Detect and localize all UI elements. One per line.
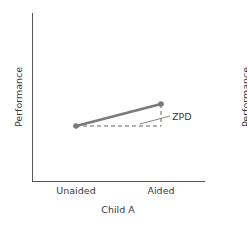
point-aided — [158, 101, 164, 107]
zpd-label: ZPD — [172, 111, 192, 122]
zpd-leader-line — [140, 116, 170, 124]
x-axis-label: Child A — [101, 204, 134, 215]
performance-line — [76, 104, 161, 126]
y-axis-label: Performance — [13, 67, 24, 127]
right-panel-y-axis-label: Performance — [240, 67, 248, 127]
chart-plot — [0, 0, 247, 230]
x-tick-aided: Aided — [147, 185, 174, 196]
point-unaided — [73, 123, 79, 129]
x-tick-unaided: Unaided — [56, 185, 95, 196]
